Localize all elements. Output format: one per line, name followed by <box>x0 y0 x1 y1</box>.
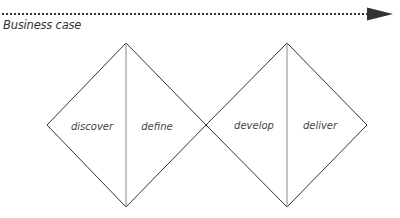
timeline-label: Business case <box>3 18 81 32</box>
phase-label-develop: develop <box>234 120 274 131</box>
phase-label-deliver: deliver <box>303 120 337 131</box>
phase-label-discover: discover <box>71 121 113 132</box>
double-diamond-diagram <box>0 0 400 218</box>
arrowhead-icon <box>367 8 393 21</box>
phase-label-define: define <box>141 121 172 132</box>
